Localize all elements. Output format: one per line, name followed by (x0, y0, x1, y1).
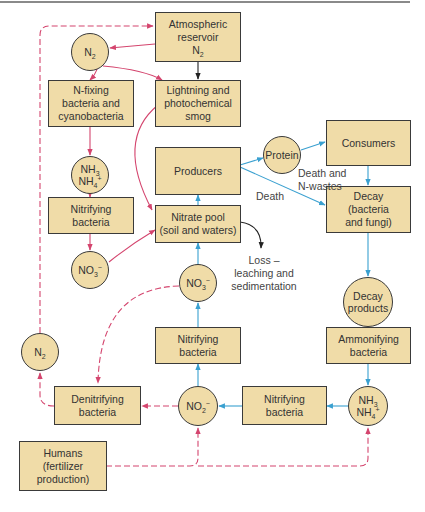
denitrifying-bacteria-box: Denitrifying bacteria (54, 386, 141, 425)
subscript: 4 (372, 413, 376, 420)
nitrifying-bacteria-left-box: Nitrifying bacteria (48, 197, 134, 234)
humans-fertilizer-box: Humans (fertilizer production) (19, 441, 107, 491)
arrow-no3-to-nitratepool (109, 230, 155, 262)
superscript: + (97, 175, 101, 182)
formula: NO (186, 277, 202, 289)
consumers-box: Consumers (326, 120, 411, 166)
nh3-nh4-bottom-circle: NH3NH4+ (348, 386, 388, 426)
atmospheric-reservoir-box: Atmospheric reservoir N2 (155, 12, 241, 62)
no3-mid-circle: NO3− (179, 264, 217, 302)
n2-left-circle: N2 (21, 333, 59, 371)
n2-top-circle: N2 (71, 33, 109, 71)
formula: N (84, 46, 92, 58)
subscript: 2 (92, 53, 96, 60)
death-and-nwastes-label: Death and N-wastes (298, 167, 368, 193)
arrow-reservoir-to-n2 (110, 44, 155, 48)
lightning-smog-box: Lightning and photochemical smog (155, 80, 241, 127)
ammonifying-bacteria-box: Ammonifying bacteria (326, 327, 411, 364)
no2-circle: NO2− (178, 386, 218, 426)
subscript: 2 (200, 51, 204, 58)
superscript: − (206, 277, 210, 284)
arrows-layer (0, 0, 425, 512)
decay-products-circle: Decay products (343, 277, 393, 327)
formula: N (192, 44, 200, 56)
death-label: Death (256, 190, 296, 203)
decay-box: Decay (bacteria and fungi) (326, 186, 411, 233)
superscript: + (375, 406, 379, 413)
nitrogen-cycle-diagram: Atmospheric reservoir N2 N2 N-fixing bac… (0, 0, 425, 512)
reservoir-label: reservoir (178, 31, 219, 43)
nh3-nh4-left-circle: NH3NH4+ (71, 156, 109, 194)
arrow-humans-to-nh3 (198, 428, 368, 466)
formula-line1: NH (358, 394, 373, 406)
subscript: 3 (202, 284, 206, 291)
arrow-denitrifying-to-n2left (40, 373, 54, 406)
formula-line1: NH (80, 163, 95, 175)
nitrifying-bacteria-mid-box: Nitrifying bacteria (155, 327, 241, 364)
loss-leaching-label: Loss – leaching and sedimentation (226, 254, 302, 293)
n-fixing-bacteria-box: N-fixing bacteria and cyanobacteria (48, 80, 134, 127)
nitrifying-bacteria-bottom-box: Nitrifying bacteria (242, 386, 327, 425)
producers-box: Producers (155, 147, 241, 195)
subscript: 2 (42, 353, 46, 360)
formula: NO (186, 400, 202, 412)
subscript: 2 (202, 407, 206, 414)
superscript: − (206, 400, 210, 407)
formula-line2: NH (356, 406, 371, 418)
nitrate-pool-box: Nitrate pool (soil and waters) (155, 205, 241, 243)
subscript: 3 (94, 271, 98, 278)
no3-left-circle: NO3− (71, 251, 109, 289)
superscript: − (98, 264, 102, 271)
arrow-n2-to-lightning (103, 66, 162, 80)
atmospheric-label: Atmospheric (169, 18, 227, 30)
formula: NO (78, 264, 94, 276)
formula-line2: NH (78, 175, 93, 187)
arrow-humans-to-no2 (106, 428, 198, 466)
protein-circle: Protein (263, 136, 301, 174)
subscript: 4 (94, 182, 98, 189)
arrow-protein-to-consumers (301, 142, 325, 150)
arrow-producers-to-protein (240, 158, 263, 165)
formula: N (34, 346, 42, 358)
arrow-nitratepool-loss (240, 222, 261, 248)
